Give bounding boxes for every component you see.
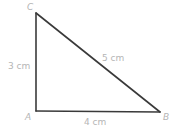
side-label-ab: 4 cm: [84, 118, 106, 127]
vertex-label-b: B: [163, 113, 169, 122]
side-cb: [36, 13, 160, 112]
side-label-cb: 5 cm: [102, 54, 124, 63]
vertex-label-c: C: [27, 3, 33, 12]
side-ab: [36, 111, 160, 112]
side-label-ac: 3 cm: [8, 62, 30, 71]
vertex-label-a: A: [25, 113, 31, 122]
